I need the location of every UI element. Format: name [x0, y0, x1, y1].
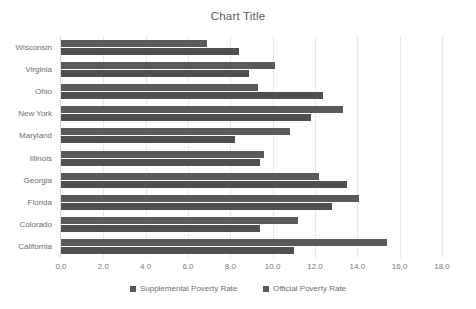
value-axis-tick-label: 8.0 — [225, 262, 236, 271]
chart-title: Chart Title — [0, 10, 476, 22]
bar-supplemental-poverty-rate[interactable] — [61, 114, 311, 121]
category-label: Illinois — [0, 147, 57, 169]
bar-official-poverty-rate[interactable] — [61, 128, 290, 135]
bar-official-poverty-rate[interactable] — [61, 40, 207, 47]
bar-rows — [61, 36, 442, 258]
bar-official-poverty-rate[interactable] — [61, 106, 343, 113]
category-label: Florida — [0, 191, 57, 213]
bar-supplemental-poverty-rate[interactable] — [61, 247, 294, 254]
bar-official-poverty-rate[interactable] — [61, 62, 275, 69]
bar-row — [61, 236, 442, 258]
value-axis-tick-label: 2.0 — [98, 262, 109, 271]
bar-row — [61, 103, 442, 125]
legend-swatch-icon — [130, 286, 136, 292]
value-axis-tick-label: 10.0 — [265, 262, 281, 271]
legend-swatch-icon — [263, 286, 269, 292]
category-label: Maryland — [0, 125, 57, 147]
chart-legend: Supplemental Poverty RateOfficial Povert… — [0, 284, 476, 293]
category-axis-labels: WisconsinVirginiaOhioNew YorkMarylandIll… — [0, 36, 57, 258]
bar-supplemental-poverty-rate[interactable] — [61, 225, 260, 232]
bar-row — [61, 125, 442, 147]
bar-supplemental-poverty-rate[interactable] — [61, 48, 239, 55]
bar-supplemental-poverty-rate[interactable] — [61, 159, 260, 166]
bar-row — [61, 169, 442, 191]
category-label: Ohio — [0, 80, 57, 102]
chart-container: Chart Title WisconsinVirginiaOhioNew Yor… — [0, 0, 476, 309]
bar-official-poverty-rate[interactable] — [61, 84, 258, 91]
category-label: California — [0, 236, 57, 258]
plot-area — [61, 36, 442, 258]
legend-label: Supplemental Poverty Rate — [140, 284, 237, 293]
category-label: Virginia — [0, 58, 57, 80]
value-axis-tick-label: 4.0 — [140, 262, 151, 271]
category-label: Wisconsin — [0, 36, 57, 58]
bar-supplemental-poverty-rate[interactable] — [61, 70, 249, 77]
bar-row — [61, 80, 442, 102]
value-axis-tick-label: 12.0 — [307, 262, 323, 271]
category-label: Georgia — [0, 169, 57, 191]
value-axis-tick-label: 14.0 — [350, 262, 366, 271]
bar-row — [61, 147, 442, 169]
bar-official-poverty-rate[interactable] — [61, 239, 387, 246]
value-axis-tick-label: 18.0 — [434, 262, 450, 271]
category-label: New York — [0, 103, 57, 125]
value-axis-tick-label: 16.0 — [392, 262, 408, 271]
bar-supplemental-poverty-rate[interactable] — [61, 203, 332, 210]
value-axis-tick-labels: 0.02.04.06.08.010.012.014.016.018.0 — [61, 262, 442, 274]
bar-row — [61, 58, 442, 80]
legend-item[interactable]: Supplemental Poverty Rate — [130, 284, 237, 293]
bar-supplemental-poverty-rate[interactable] — [61, 92, 323, 99]
value-axis-tick-label: 0.0 — [55, 262, 66, 271]
bar-official-poverty-rate[interactable] — [61, 217, 298, 224]
bar-supplemental-poverty-rate[interactable] — [61, 181, 347, 188]
legend-label: Official Poverty Rate — [273, 284, 346, 293]
bar-row — [61, 36, 442, 58]
category-label: Colorado — [0, 214, 57, 236]
bar-official-poverty-rate[interactable] — [61, 173, 319, 180]
value-axis-tick-label: 6.0 — [182, 262, 193, 271]
bar-row — [61, 214, 442, 236]
gridline — [442, 36, 443, 258]
bar-row — [61, 191, 442, 213]
bar-official-poverty-rate[interactable] — [61, 195, 359, 202]
bar-official-poverty-rate[interactable] — [61, 151, 264, 158]
bar-supplemental-poverty-rate[interactable] — [61, 136, 235, 143]
legend-item[interactable]: Official Poverty Rate — [263, 284, 346, 293]
